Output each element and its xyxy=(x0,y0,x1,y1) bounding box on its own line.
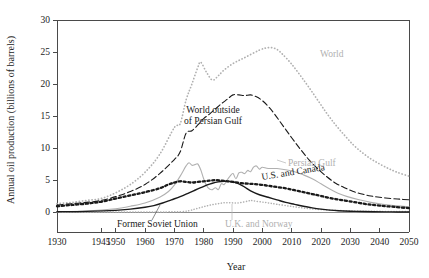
y-tick-label: 0 xyxy=(45,207,50,217)
y-tick-label: 15 xyxy=(41,111,51,121)
series-label-u-k-and-norway: U.K. and Norway xyxy=(225,219,293,229)
series-label-former-soviet-union: Former Soviet Union xyxy=(117,219,198,229)
chart-figure: WorldWorld outsideof Persian GulfPersian… xyxy=(0,0,429,278)
x-tick-label: 2000 xyxy=(253,237,272,247)
y-tick-label: 30 xyxy=(41,15,51,25)
leader-persian-gulf xyxy=(277,160,286,163)
x-tick-label: 2030 xyxy=(341,237,360,247)
x-tick-label: 2020 xyxy=(312,237,331,247)
x-tick-label: 2010 xyxy=(282,237,301,247)
x-tick-label: 2050 xyxy=(400,237,419,247)
x-tick-label: 1950 xyxy=(106,237,125,247)
x-tick-label: 1990 xyxy=(224,237,243,247)
x-tick-label: 1980 xyxy=(194,237,213,247)
y-axis-title: Annual oil production (billions of barre… xyxy=(5,36,17,204)
x-tick-label: 1960 xyxy=(136,237,155,247)
series-line-former-soviet-union xyxy=(57,181,409,212)
series-group xyxy=(57,47,409,212)
x-axis-title: Year xyxy=(227,261,246,272)
oil-production-line-chart: WorldWorld outsideof Persian GulfPersian… xyxy=(0,0,429,278)
series-line-u-s-and-canada xyxy=(57,180,409,208)
x-tick-label: 1930 xyxy=(48,237,67,247)
series-label-world: World xyxy=(320,49,344,59)
leader-lines xyxy=(152,160,286,220)
y-tick-label: 10 xyxy=(41,143,51,153)
series-line-persian-gulf xyxy=(57,163,409,212)
y-tick-label: 20 xyxy=(41,79,51,89)
x-tick-label: 1970 xyxy=(165,237,184,247)
y-tick-label: 5 xyxy=(45,175,50,185)
x-tick-label: 2040 xyxy=(370,237,389,247)
series-labels: WorldWorld outsideof Persian GulfPersian… xyxy=(117,49,344,229)
series-label-world-outside-of-persian-gulf: World outsideof Persian Gulf xyxy=(184,105,243,126)
y-tick-label: 25 xyxy=(41,47,51,57)
